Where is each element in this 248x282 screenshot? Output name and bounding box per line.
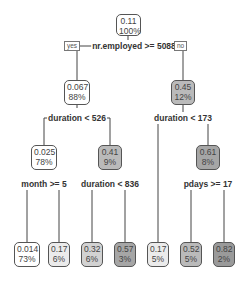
tree-node-7: 0.61 8% [196,145,220,170]
leaf-node-1: 0.014 73% [14,242,40,267]
tree-node-root: 0.11 100% [116,14,141,36]
leaf-node-7: 0.82 2% [213,242,235,267]
node-percent: 73% [17,254,37,264]
tree-node-3: 0.45 12% [171,80,195,105]
leaf-node-6: 0.52 5% [180,242,202,267]
node-value: 0.17 [150,244,166,254]
yes-label: yes [64,41,80,51]
node-value: 0.57 [117,244,133,254]
tree-node-4: 0.025 78% [31,145,57,170]
leaf-node-4: 0.57 3% [114,242,136,267]
node-percent: 3% [117,254,133,264]
leaf-node-3: 0.32 6% [81,242,103,267]
node-percent: 6% [84,254,100,264]
leaf-node-2: 0.17 6% [48,242,70,267]
node-percent: 78% [34,157,54,167]
node-percent: 5% [183,254,199,264]
node-value: 0.067 [67,82,87,92]
node-value: 0.45 [174,82,192,92]
split-label-node-5: duration < 836 [80,179,140,189]
node-percent: 88% [67,92,87,102]
node-percent: 12% [174,92,192,102]
node-percent: 8% [199,157,217,167]
node-value: 0.11 [119,16,138,26]
node-percent: 2% [216,254,232,264]
split-label-node-4: month >= 5 [20,179,67,189]
no-label: no [174,41,187,51]
leaf-node-5: 0.17 5% [147,242,169,267]
node-value: 0.41 [101,147,119,157]
node-percent: 5% [150,254,166,264]
tree-node-2: 0.067 88% [64,80,90,105]
node-value: 0.014 [17,244,37,254]
split-label-root: nr.employed >= 5088 [91,41,177,51]
node-value: 0.52 [183,244,199,254]
node-percent: 9% [101,157,119,167]
split-label-node-7: pdays >= 17 [183,179,234,189]
node-value: 0.17 [51,244,67,254]
split-label-node-3: duration < 173 [153,113,213,123]
node-percent: 100% [119,26,138,36]
node-value: 0.32 [84,244,100,254]
split-label-node-2: duration < 526 [47,113,107,123]
node-percent: 6% [51,254,67,264]
node-value: 0.025 [34,147,54,157]
tree-node-5: 0.41 9% [98,145,122,170]
node-value: 0.61 [199,147,217,157]
node-value: 0.82 [216,244,232,254]
